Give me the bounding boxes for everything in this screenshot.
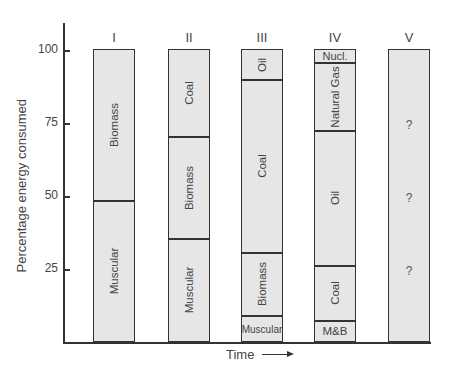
segment-label: Nucl.	[322, 50, 347, 62]
segment-label: Coal	[329, 281, 341, 305]
segment-biomass: Biomass	[94, 50, 134, 200]
segment-label: Coal	[256, 154, 268, 178]
y-tick-75	[63, 123, 70, 125]
bar-iii: Oil Coal Biomass Muscular	[241, 49, 283, 342]
category-label-v: V	[388, 30, 430, 45]
segment-label: Biomass	[108, 103, 120, 147]
segment-label: Biomass	[256, 262, 268, 306]
segment-label: M&B	[323, 325, 348, 337]
x-axis-label: Time	[226, 347, 292, 362]
segment-coal: Coal	[315, 266, 355, 320]
segment-label: Oil	[329, 191, 341, 205]
segment-label: Muscular	[242, 323, 283, 334]
segment-muscular: Muscular	[242, 316, 282, 341]
unknown-marker: ?	[388, 264, 430, 278]
y-tick-50	[63, 196, 70, 198]
segment-biomass: Biomass	[169, 137, 209, 238]
segment-label: Coal	[183, 81, 195, 105]
y-axis-label: Percentage energy consumed	[14, 103, 29, 273]
segment-label: Muscular	[183, 267, 195, 314]
segment-muscular: Muscular	[94, 201, 134, 341]
unknown-marker: ?	[388, 118, 430, 132]
y-tick-label-100: 100	[18, 42, 58, 56]
arrow-right-icon	[262, 354, 292, 356]
segment-m-and-b: M&B	[315, 321, 355, 341]
y-axis	[63, 23, 65, 343]
category-label-iii: III	[241, 30, 283, 45]
category-label-iv: IV	[314, 30, 356, 45]
category-label-i: I	[93, 30, 135, 45]
segment-label: Oil	[256, 57, 268, 71]
segment-natural-gas: Natural Gas	[315, 63, 355, 130]
bar-ii: Coal Biomass Muscular	[168, 49, 210, 342]
segment-label: Muscular	[108, 248, 120, 295]
bar-iv: Nucl. Natural Gas Oil Coal M&B	[314, 49, 356, 342]
bar-i: Biomass Muscular	[93, 49, 135, 342]
x-axis	[63, 342, 431, 344]
segment-label: Biomass	[183, 165, 195, 209]
category-label-ii: II	[168, 30, 210, 45]
unknown-marker: ?	[388, 191, 430, 205]
x-axis-label-text: Time	[226, 347, 254, 362]
segment-oil: Oil	[315, 131, 355, 265]
segment-oil: Oil	[242, 50, 282, 79]
segment-coal: Coal	[242, 80, 282, 252]
y-tick-100	[63, 50, 70, 52]
segment-muscular: Muscular	[169, 239, 209, 341]
y-tick-25	[63, 269, 70, 271]
segment-nuclear: Nucl.	[315, 50, 355, 62]
segment-coal: Coal	[169, 50, 209, 136]
segment-label: Natural Gas	[329, 66, 341, 127]
segment-biomass: Biomass	[242, 253, 282, 315]
